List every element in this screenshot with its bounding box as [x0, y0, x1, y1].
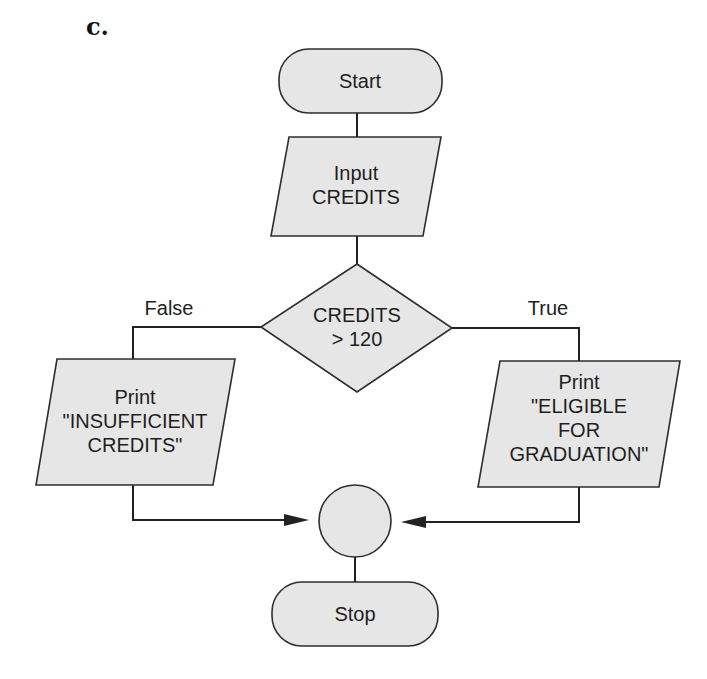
- eligible-for-graduation-output: Print "ELIGIBLE FOR GRADUATION": [478, 361, 680, 487]
- true-output-line-1: Print: [558, 371, 600, 393]
- false-output-line-1: Print: [114, 386, 156, 408]
- false-output-to-connector-line: [133, 485, 292, 520]
- decision-line-1: CREDITS: [313, 304, 401, 326]
- false-output-line-2: "INSUFFICIENT: [63, 410, 208, 432]
- true-output-line-3: FOR: [558, 419, 600, 441]
- true-output-to-connector-line: [418, 487, 579, 522]
- input-line-1: Input: [334, 162, 379, 184]
- true-branch-line: [452, 328, 579, 361]
- false-output-line-3: CREDITS": [88, 434, 183, 456]
- flowchart: Start Input CREDITS CREDITS > 120 False …: [0, 0, 707, 679]
- input-line-2: CREDITS: [312, 186, 400, 208]
- false-branch-label: False: [145, 297, 194, 319]
- decision-line-2: > 120: [332, 328, 383, 350]
- true-output-line-4: GRADUATION": [510, 443, 649, 465]
- start-label: Start: [339, 70, 382, 92]
- left-arrowhead-icon: [401, 516, 426, 528]
- true-branch-label: True: [528, 297, 568, 319]
- true-output-line-2: "ELIGIBLE: [531, 395, 627, 417]
- insufficient-credits-output: Print "INSUFFICIENT CREDITS": [36, 359, 235, 485]
- right-arrowhead-icon: [284, 514, 309, 526]
- merge-connector-circle: [319, 485, 391, 557]
- start-terminal: Start: [279, 49, 442, 113]
- stop-terminal: Stop: [272, 582, 438, 646]
- input-credits-box: Input CREDITS: [271, 137, 441, 236]
- decision-diamond: CREDITS > 120: [261, 264, 452, 392]
- false-branch-line: [133, 327, 261, 359]
- stop-label: Stop: [334, 603, 375, 625]
